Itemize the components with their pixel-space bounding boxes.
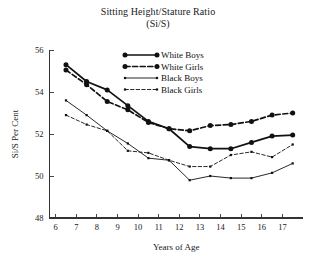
data-point (168, 159, 170, 161)
chart-plot: 485052545667891011121314151617 White Boy… (0, 0, 316, 266)
data-point (167, 126, 172, 131)
data-point (106, 130, 108, 132)
data-point (124, 88, 126, 90)
data-point (127, 142, 129, 144)
legend-item-black-girls: Black Girls (124, 85, 203, 95)
data-point (249, 140, 254, 145)
data-point (65, 114, 67, 116)
y-tick-label: 52 (35, 129, 44, 139)
data-point (187, 128, 192, 133)
x-tick-label: 12 (175, 222, 184, 232)
data-point (156, 88, 158, 90)
data-point (230, 154, 232, 156)
data-point (292, 143, 294, 145)
data-point (123, 64, 128, 69)
data-point (208, 146, 213, 151)
data-point (209, 175, 211, 177)
data-point (155, 53, 160, 58)
data-point (209, 165, 211, 167)
data-point (155, 64, 160, 69)
y-tick-label: 56 (35, 45, 44, 55)
x-tick-label: 14 (216, 222, 225, 232)
data-point (105, 87, 110, 92)
data-point (65, 99, 67, 101)
legend-item-black-boys: Black Boys (124, 73, 203, 83)
x-tick-label: 11 (155, 222, 163, 232)
data-point (85, 123, 87, 125)
x-tick-label: 16 (258, 222, 267, 232)
legend-item-white-boys: White Boys (123, 50, 205, 60)
data-point (189, 179, 191, 181)
data-point (250, 177, 252, 179)
y-axis-title: Si/S Per Cent (10, 109, 20, 158)
x-tick-label: 9 (115, 222, 119, 232)
x-tick-label: 15 (237, 222, 246, 232)
x-tick-label: 6 (54, 222, 58, 232)
x-tick-label: 7 (74, 222, 78, 232)
data-point (147, 152, 149, 154)
y-tick-label: 54 (35, 87, 44, 97)
data-point (156, 77, 158, 79)
data-point (63, 62, 68, 67)
data-point (146, 120, 151, 125)
data-point (230, 177, 232, 179)
legend-label: White Boys (161, 50, 204, 60)
legend-group: White BoysWhite GirlsBlack BoysBlack Gir… (123, 50, 205, 94)
data-point (292, 162, 294, 164)
data-point (249, 119, 254, 124)
data-point (270, 113, 275, 118)
data-point (271, 156, 273, 158)
data-point (85, 114, 87, 116)
x-axis-title: Years of Age (153, 242, 200, 252)
data-point (63, 67, 68, 72)
data-point (125, 107, 130, 112)
data-point (127, 150, 129, 152)
data-point (228, 146, 233, 151)
data-point (271, 172, 273, 174)
data-point (290, 111, 295, 116)
y-tick-label: 50 (35, 171, 44, 181)
data-point (290, 133, 295, 138)
legend-label: White Girls (161, 62, 204, 72)
legend-label: Black Girls (161, 85, 203, 95)
data-point (250, 151, 252, 153)
data-point (187, 144, 192, 149)
data-point (147, 157, 149, 159)
data-point (123, 53, 128, 58)
data-point (228, 122, 233, 127)
chart-container: Sitting Height/Stature Ratio (Si/S) 4850… (0, 0, 316, 266)
legend-item-white-girls: White Girls (123, 62, 204, 72)
data-point (105, 99, 110, 104)
x-tick-label: 10 (134, 222, 143, 232)
legend-label: Black Boys (161, 73, 203, 83)
data-point (84, 82, 89, 87)
data-point (124, 77, 126, 79)
x-tick-label: 17 (278, 222, 287, 232)
y-tick-label: 48 (35, 213, 44, 223)
x-tick-label: 13 (196, 222, 205, 232)
data-point (208, 123, 213, 128)
data-point (189, 165, 191, 167)
x-tick-label: 8 (95, 222, 99, 232)
data-point (270, 134, 275, 139)
